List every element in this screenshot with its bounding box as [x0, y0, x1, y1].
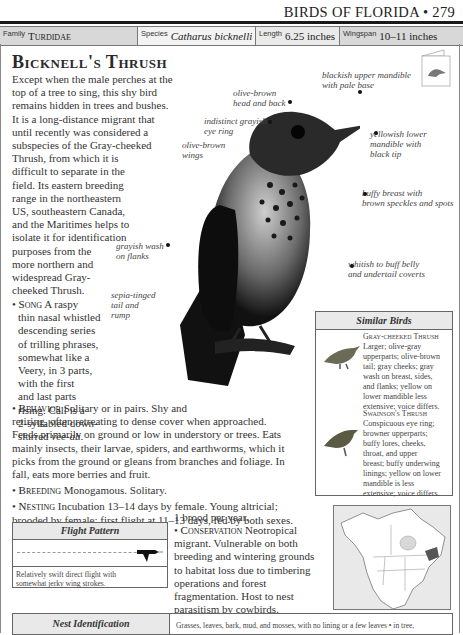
species-title: Bicknell's Thrush	[12, 52, 167, 73]
family-cell: Family Turdidae	[0, 27, 138, 45]
similar-bird-line: throat, and upper	[363, 449, 451, 459]
song-label: Song	[19, 298, 42, 310]
similar-bird-line: browner upperparts;	[363, 429, 451, 439]
callout-line: black tip	[370, 149, 427, 159]
similar-birds-box: Similar Birds Gray-cheeked Thrush Larger…	[315, 311, 453, 496]
nest-identification-box: Nest Identification Grasses, leaves, bar…	[12, 613, 453, 635]
callout-eye-ring: indistinct grayish eye ring	[204, 116, 267, 136]
callout-line: yellowish lower	[370, 129, 427, 139]
callout-line: indistinct grayish	[204, 116, 267, 126]
behavior-line: Solitary or in pairs. Shy and	[64, 402, 187, 414]
callout-line: blackish upper mandible	[322, 70, 411, 80]
species-cell: Species Catharus bicknelli	[138, 27, 256, 45]
similar-bird-name: Gray-cheeked Thrush	[363, 332, 451, 342]
callout-line: mandible with	[370, 139, 427, 149]
song-line: descending series	[18, 324, 112, 337]
conservation-line: fragmentation. Host to nest	[174, 590, 334, 603]
behavior-section: • Behavior Solitary or in pairs. Shy and…	[12, 402, 312, 527]
caption-line: Relatively swift direct flight with	[16, 570, 164, 579]
conservation-line: migrant. Vulnerable on both	[174, 537, 334, 550]
similar-bird-line: breast; buffy underwing	[363, 459, 451, 469]
similar-bird-2: Swainson's Thrush Conspicuous eye ring; …	[363, 409, 451, 499]
callout-line: tail and	[111, 300, 156, 310]
callout-belly: whitish to buff belly and undertail cove…	[348, 259, 425, 279]
wingspan-cell: Wingspan 10–11 inches	[340, 27, 463, 45]
behavior-line: Feeds primarily on ground or low in unde…	[12, 428, 312, 441]
conservation-line: to habitat loss due to timbering	[174, 564, 334, 577]
similar-bird-line: mandible is less	[363, 479, 451, 489]
conservation-line: Neotropical	[245, 524, 297, 536]
length-cell: Length 6.25 inches	[256, 27, 340, 45]
song-line: A raspy	[44, 298, 78, 310]
similar-birds-heading: Similar Birds	[316, 312, 452, 330]
bird-card-icon	[420, 48, 456, 88]
song-line: thin nasal whistled	[18, 311, 112, 324]
flight-diagram	[13, 540, 167, 567]
callout-line: eye ring	[204, 126, 267, 136]
north-america-map-icon	[333, 505, 451, 610]
family-label: Family	[3, 29, 25, 38]
conservation-line: operations and forest	[174, 577, 334, 590]
similar-bird-line: Larger; olive-gray	[363, 342, 451, 352]
running-head: BIRDS OF FLORIDA • 279	[284, 4, 455, 21]
callout-dot	[358, 90, 362, 94]
nesting-line3: 1 brood per year.	[174, 511, 249, 524]
species-label: Species	[141, 29, 168, 38]
behavior-line: retiring, often retreating to dense cove…	[12, 415, 312, 428]
callout-line: brown speckles and spots	[362, 198, 453, 208]
species-value: Catharus bicknelli	[171, 30, 253, 42]
similar-bird-line: tail; gray cheeks; gray	[363, 362, 451, 372]
callout-line: whitish to buff belly	[348, 259, 425, 269]
flying-bird-icon	[135, 543, 165, 563]
length-label: Length	[259, 29, 282, 38]
song-line: somewhat like a	[18, 351, 112, 364]
similar-bird-line: upperparts; olive-brown	[363, 352, 451, 362]
callout-line: rump	[111, 310, 156, 320]
callout-breast: buffy breast with brown speckles and spo…	[362, 188, 453, 208]
swainsons-thrush-icon	[322, 422, 362, 462]
callout-dot	[374, 131, 378, 135]
callout-dot	[166, 243, 170, 247]
callout-dot	[350, 264, 354, 268]
callout-dot	[363, 192, 367, 196]
flight-caption: Relatively swift direct flight with some…	[13, 567, 167, 588]
length-value: 6.25 inches	[285, 30, 335, 42]
similar-bird-1: Gray-cheeked Thrush Larger; olive-gray u…	[363, 332, 451, 412]
song-line: of trilling phrases,	[18, 338, 112, 351]
callout-line: olive-brown	[182, 140, 225, 150]
similar-bird-line: linings; yellow on lower	[363, 469, 451, 479]
flight-pattern-heading: Flight Pattern	[13, 523, 167, 540]
caption-line: somewhat jerky wing strokes.	[16, 579, 164, 588]
callout-line: and undertail coverts	[348, 269, 425, 279]
callout-wings: olive-brown wings	[182, 140, 225, 160]
callout-line: with pale base	[322, 80, 411, 90]
callout-line: wings	[182, 150, 225, 160]
callout-line: olive-brown	[233, 88, 285, 98]
callout-line: buffy breast with	[362, 188, 453, 198]
behavior-line: picks from the ground or gleans from bra…	[12, 455, 312, 468]
wingspan-label: Wingspan	[343, 29, 376, 38]
conservation-label: Conservation	[181, 524, 243, 536]
behavior-line: fall, eats more berries and fruit.	[12, 468, 312, 481]
similar-bird-line: extensive; voice differs.	[363, 489, 451, 499]
callout-flanks: grayish wash on flanks	[116, 241, 164, 261]
callout-line: grayish wash	[116, 241, 164, 251]
song-line: Veery, in 3 parts,	[18, 364, 112, 377]
gray-cheeked-thrush-icon	[322, 342, 362, 372]
callout-dot	[268, 120, 272, 124]
callout-upper-mandible: blackish upper mandible with pale base	[322, 70, 411, 90]
behavior-line: mainly insects, their larvae, spiders, a…	[12, 442, 312, 455]
breeding-text: Monogamous. Solitary.	[64, 484, 167, 496]
nesting-label: Nesting	[19, 500, 55, 512]
breeding-label: Breeding	[19, 484, 61, 496]
wingspan-value: 10–11 inches	[379, 30, 437, 42]
callout-head-back: olive-brown head and back	[233, 88, 285, 108]
callout-line: sepia-tinged	[111, 290, 156, 300]
callout-tail: sepia-tinged tail and rump	[111, 290, 156, 320]
song-line: with the first	[18, 377, 112, 390]
similar-bird-line: buffy lores, cheeks,	[363, 439, 451, 449]
info-bar: Family Turdidae Species Catharus bicknel…	[0, 26, 463, 46]
callout-dot	[288, 100, 292, 104]
similar-bird-line: Conspicuous eye ring;	[363, 419, 451, 429]
header-rule	[0, 21, 463, 24]
